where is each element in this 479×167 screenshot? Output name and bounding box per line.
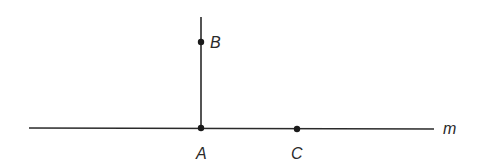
label-b: B [210, 35, 221, 51]
point-a [198, 125, 204, 131]
point-b [198, 39, 204, 45]
point-c [294, 126, 300, 132]
label-a: A [196, 146, 207, 162]
label-c: C [291, 146, 303, 162]
geometry-diagram [0, 0, 479, 167]
line-m [29, 128, 434, 129]
label-m: m [443, 121, 456, 137]
